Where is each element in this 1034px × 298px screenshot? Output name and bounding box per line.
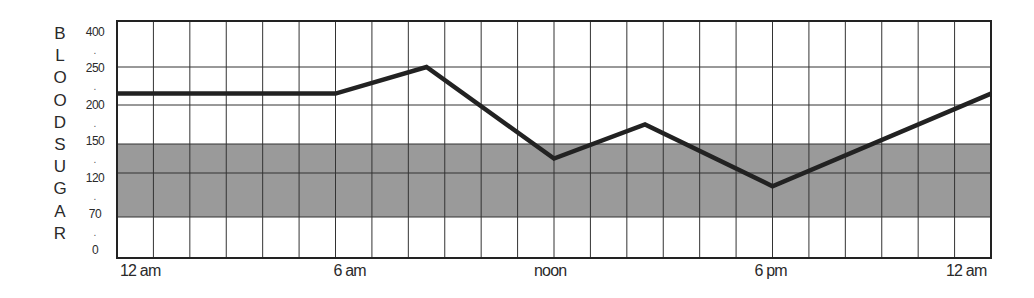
plot-area xyxy=(0,0,1034,298)
x-tick-label: noon xyxy=(534,262,566,280)
x-tick-label: 6 am xyxy=(334,262,366,280)
x-tick-label: 6 pm xyxy=(755,262,787,280)
x-tick-label: 12 am xyxy=(120,262,160,280)
blood-sugar-chart: BLOODSUGAR 400.250.200.150.120.70.0 12 a… xyxy=(0,0,1034,298)
x-tick-label: 12 am xyxy=(946,262,986,280)
